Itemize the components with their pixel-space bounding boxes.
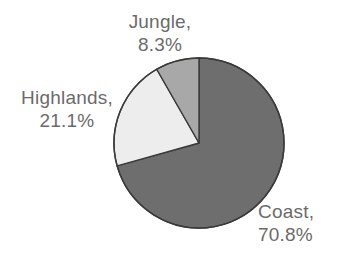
pie-label-coast-value: 70.8% [258, 223, 344, 246]
pie-label-jungle-name: Jungle, [98, 10, 222, 33]
pie-label-coast-name: Coast, [258, 200, 344, 223]
pie-label-highlands: Highlands, 21.1% [8, 86, 126, 132]
pie-label-coast: Coast, 70.8% [258, 200, 344, 246]
pie-label-jungle-value: 8.3% [98, 33, 222, 56]
pie-label-highlands-value: 21.1% [8, 109, 126, 132]
pie-label-highlands-name: Highlands, [8, 86, 126, 109]
pie-chart-figure: Jungle, 8.3% Highlands, 21.1% Coast, 70.… [0, 0, 344, 261]
pie-label-jungle: Jungle, 8.3% [98, 10, 222, 56]
